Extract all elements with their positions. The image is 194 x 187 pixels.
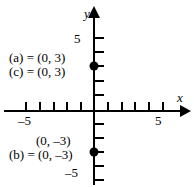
y-axis-tick-label-5: 5	[74, 32, 81, 45]
x-axis-tick-label-5: 5	[155, 114, 162, 127]
annotation-point-a: (a) = (0, 3)	[9, 51, 65, 65]
x-axis-label: x	[177, 91, 183, 104]
y-axis-tick-label-minus5: –5	[65, 166, 78, 179]
data-point-0-minus3	[90, 148, 99, 157]
data-point-0-3	[90, 62, 99, 71]
y-axis-label: y	[84, 7, 90, 20]
annotation-point-b: (b) = (0, –3)	[9, 148, 73, 162]
coordinate-plane-figure: y x –5 5 5 –5 (a) = (0, 3) (c) = (0, 3) …	[0, 0, 194, 187]
annotation-coordinate-0-minus3: (0, –3)	[36, 134, 71, 148]
annotation-point-c: (c) = (0, 3)	[9, 65, 65, 79]
x-axis-arrowhead	[180, 105, 191, 117]
x-axis-tick-label-minus5: –5	[18, 114, 31, 127]
